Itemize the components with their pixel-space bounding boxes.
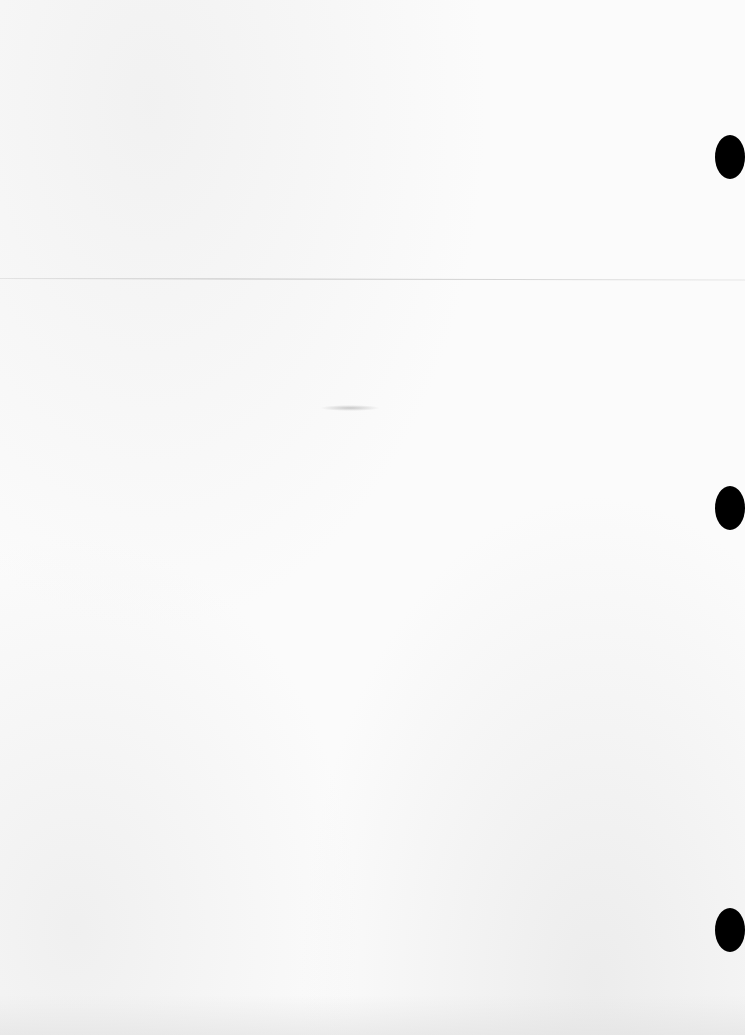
smudge-mark	[320, 405, 380, 411]
scan-shadow	[0, 995, 745, 1035]
punch-hole-middle	[715, 486, 745, 530]
punch-hole-top	[715, 135, 745, 179]
punch-hole-bottom	[715, 908, 745, 952]
scanned-page	[0, 0, 745, 1035]
fold-line	[0, 278, 745, 281]
